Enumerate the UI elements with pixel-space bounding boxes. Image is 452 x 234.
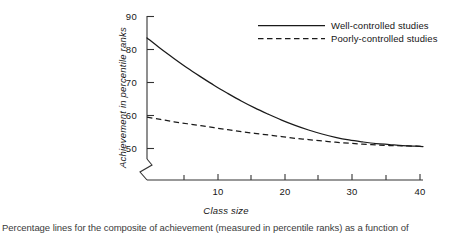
- figure-container: 90 80 70 60 50 10 20 30 40 Achievement i…: [0, 0, 452, 234]
- legend-label-poorly-controlled: Poorly-controlled studies: [331, 33, 438, 44]
- y-axis-ticks: [147, 17, 154, 149]
- x-axis-title: Class size: [0, 205, 452, 216]
- x-tick-label-40: 40: [407, 186, 433, 197]
- y-axis-break-zigzag: [140, 159, 152, 180]
- x-tick-label-10: 10: [205, 186, 231, 197]
- y-axis-title: Achievement in percentile ranks: [117, 27, 128, 168]
- figure-caption: Percentage lines for the composite of ac…: [2, 222, 452, 233]
- y-tick-label-90: 90: [115, 11, 137, 22]
- legend-label-well-controlled: Well-controlled studies: [331, 20, 429, 31]
- series-line-well-controlled: [147, 38, 423, 147]
- x-axis-ticks-major: [218, 174, 420, 180]
- x-tick-label-20: 20: [272, 186, 298, 197]
- x-tick-label-30: 30: [339, 186, 365, 197]
